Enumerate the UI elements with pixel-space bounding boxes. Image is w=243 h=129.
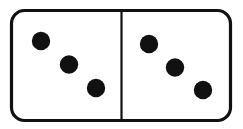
domino-scene (0, 0, 243, 129)
domino-pip-left-2 (60, 55, 78, 73)
domino-tile-graphic (0, 0, 243, 129)
domino-pip-left-3 (87, 79, 105, 97)
domino-pip-left-1 (32, 32, 50, 50)
domino-pip-right-2 (166, 58, 184, 76)
domino-pip-right-3 (194, 81, 212, 99)
domino-pip-right-1 (140, 35, 158, 53)
